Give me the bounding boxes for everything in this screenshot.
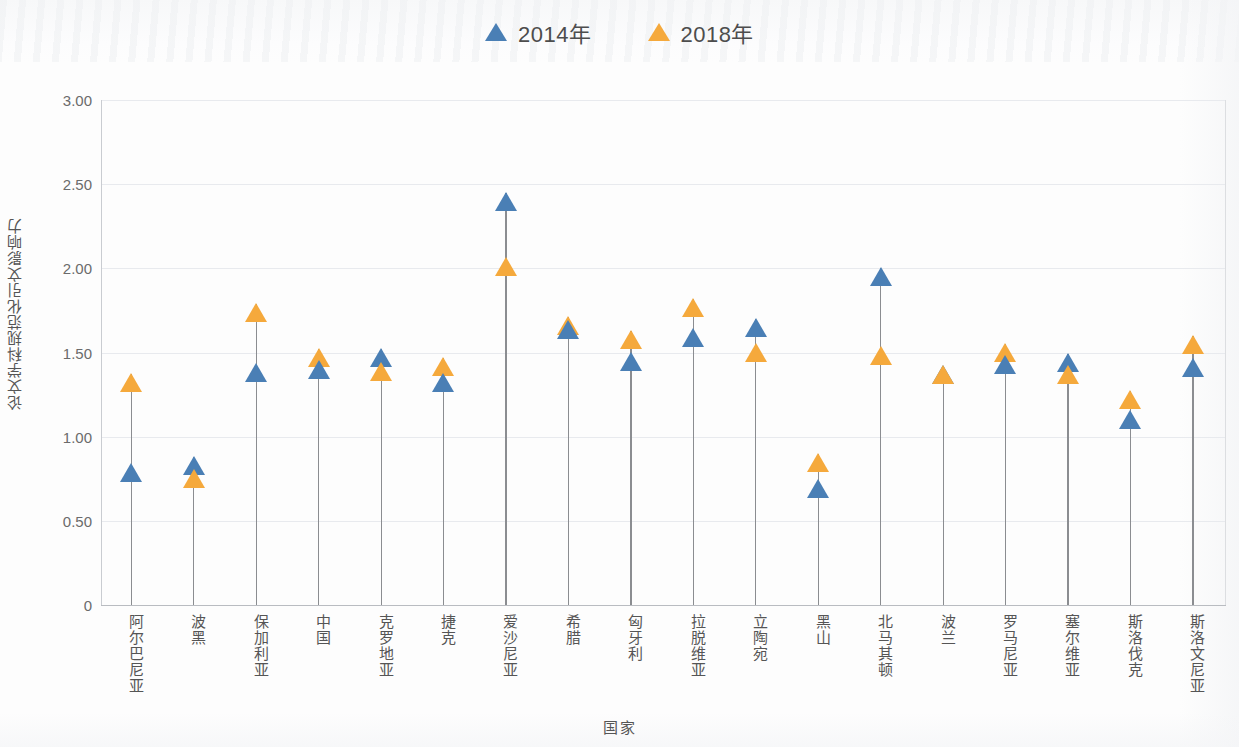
marker-2018[interactable] [495,257,517,276]
x-tick-label: 爱沙尼亚 [494,614,520,678]
x-tick-label: 中国 [307,614,333,646]
x-tick-label: 波兰 [931,614,957,646]
x-tick-label: 斯洛伐克 [1118,614,1144,678]
stem-line [1005,344,1006,605]
stem-line [630,331,631,605]
x-tick-label: 拉脱维亚 [681,614,707,678]
marker-2014[interactable] [120,463,142,482]
x-tick-label: 罗马尼亚 [993,614,1019,678]
marker-2018[interactable] [870,346,892,365]
stem-line [505,193,506,605]
x-tick-label: 保加利亚 [244,614,270,678]
marker-2014[interactable] [745,318,767,337]
marker-2018[interactable] [932,365,954,384]
chart-legend: 2014年 2018年 [0,16,1239,48]
stem-line [381,349,382,605]
stem-line [1067,354,1068,605]
legend-item-2014[interactable]: 2014年 [485,16,591,48]
x-tick-label: 立陶宛 [744,614,770,662]
marker-2014[interactable] [1182,358,1204,377]
marker-2018[interactable] [620,330,642,349]
stem-line [443,358,444,605]
x-tick-label: 斯洛文尼亚 [1181,614,1207,694]
plot-area: 论文学科规范化引文影响力 国家 3.002.502.001.501.000.50… [0,0,1239,747]
data-series-layer: 阿尔巴尼亚波黑保加利亚中国克罗地亚捷克爱沙尼亚希腊匈牙利拉脱维亚立陶宛黑山北马其… [0,0,1239,747]
marker-2018[interactable] [1119,390,1141,409]
marker-2018[interactable] [120,373,142,392]
chart-page: 2014年 2018年 论文学科规范化引文影响力 国家 3.002.502.00… [0,0,1239,747]
x-tick-label: 捷克 [431,614,457,646]
triangle-up-icon [648,23,670,41]
marker-2018[interactable] [183,469,205,488]
marker-2014[interactable] [1119,410,1141,429]
x-tick-label: 克罗地亚 [369,614,395,678]
x-tick-label: 阿尔巴尼亚 [119,614,145,694]
x-tick-label: 希腊 [556,614,582,646]
marker-2014[interactable] [682,328,704,347]
marker-2018[interactable] [245,303,267,322]
x-tick-label: 塞尔维亚 [1056,614,1082,678]
stem-line [131,374,132,605]
legend-item-2018[interactable]: 2018年 [648,16,754,48]
marker-2014[interactable] [557,320,579,339]
marker-2014[interactable] [620,352,642,371]
marker-2014[interactable] [432,373,454,392]
legend-label-2014: 2014年 [518,16,591,48]
stem-line [318,349,319,605]
marker-2014[interactable] [994,355,1016,374]
stem-line [256,304,257,605]
triangle-up-icon [485,23,507,41]
marker-2018[interactable] [1182,335,1204,354]
x-tick-label: 匈牙利 [619,614,645,662]
x-tick-label: 北马其顿 [869,614,895,678]
stem-line [568,317,569,605]
x-tick-label: 波黑 [182,614,208,646]
stem-line [818,454,819,606]
marker-2014[interactable] [245,363,267,382]
stem-line [943,366,944,605]
marker-2018[interactable] [1057,365,1079,384]
legend-label-2018: 2018年 [681,16,754,48]
marker-2014[interactable] [308,360,330,379]
marker-2014[interactable] [807,479,829,498]
stem-line [880,268,881,605]
marker-2018[interactable] [807,453,829,472]
marker-2018[interactable] [370,362,392,381]
x-tick-label: 黑山 [806,614,832,646]
marker-2018[interactable] [682,298,704,317]
marker-2014[interactable] [495,192,517,211]
marker-2018[interactable] [745,343,767,362]
marker-2014[interactable] [870,267,892,286]
